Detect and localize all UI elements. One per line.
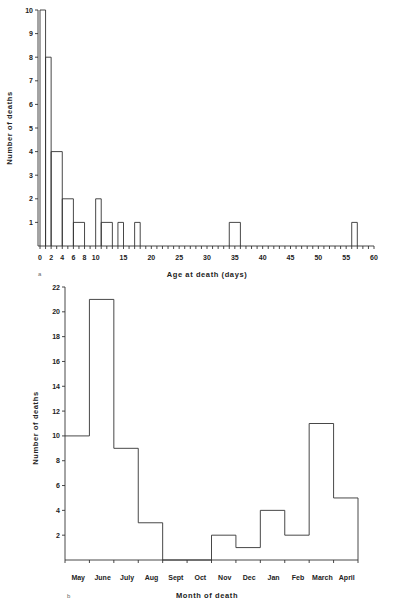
x-category-label: Jan — [268, 574, 280, 581]
histogram-bar — [62, 199, 73, 246]
y-tick-label: 4 — [29, 148, 33, 155]
y-tick-label: 10 — [25, 7, 33, 14]
y-tick-label: 9 — [29, 30, 33, 37]
x-tick-label: 45 — [287, 254, 295, 261]
y-tick-label: 5 — [29, 125, 33, 132]
x-tick-label: 8 — [83, 254, 87, 261]
x-tick-label: 10 — [92, 254, 100, 261]
y-tick-label: 20 — [52, 308, 60, 315]
x-tick-label: 35 — [231, 254, 239, 261]
y-tick-label: 4 — [56, 507, 60, 514]
histogram-bar — [229, 222, 240, 246]
x-category-label: Feb — [292, 574, 304, 581]
histogram-bar — [40, 10, 46, 246]
y-tick-label: 16 — [52, 358, 60, 365]
x-axis-title: Age at death (days) — [167, 270, 248, 279]
histogram-bar — [73, 222, 84, 246]
x-tick-label: 6 — [71, 254, 75, 261]
x-category-label: April — [339, 574, 355, 582]
y-tick-label: 2 — [56, 532, 60, 539]
y-tick-label: 2 — [29, 195, 33, 202]
x-tick-label: 20 — [147, 254, 155, 261]
histogram-bar — [96, 199, 102, 246]
x-tick-label: 25 — [175, 254, 183, 261]
y-tick-label: 14 — [52, 383, 60, 390]
y-axis-title: Number of deaths — [5, 91, 14, 164]
figure: 12345678910024681015202530354045505560Ag… — [0, 0, 394, 604]
histogram-bar — [101, 222, 112, 246]
x-tick-label: 40 — [259, 254, 267, 261]
x-category-label: Sept — [168, 574, 184, 582]
y-tick-label: 7 — [29, 77, 33, 84]
x-category-label: Oct — [194, 574, 206, 581]
histogram-outline — [65, 299, 358, 560]
histogram-bar — [118, 222, 124, 246]
x-tick-label: 30 — [203, 254, 211, 261]
x-category-label: July — [120, 574, 134, 582]
y-axis-title: Number of deaths — [31, 391, 40, 464]
x-axis-title: Month of death — [176, 591, 238, 600]
y-tick-label: 10 — [52, 432, 60, 439]
y-tick-label: 1 — [29, 219, 33, 226]
histogram-bar — [46, 57, 52, 246]
x-category-label: May — [71, 574, 85, 582]
histogram-bar — [51, 152, 62, 246]
x-category-label: Dec — [243, 574, 256, 581]
histogram-bar — [352, 222, 358, 246]
x-tick-label: 2 — [49, 254, 53, 261]
x-category-label: Nov — [218, 574, 231, 581]
y-tick-label: 8 — [29, 54, 33, 61]
y-tick-label: 6 — [56, 482, 60, 489]
x-category-label: Aug — [145, 574, 159, 582]
y-tick-label: 3 — [29, 172, 33, 179]
x-tick-label: 15 — [120, 254, 128, 261]
y-tick-label: 12 — [52, 408, 60, 415]
x-tick-label: 50 — [314, 254, 322, 261]
x-tick-label: 60 — [370, 254, 378, 261]
x-tick-label: 4 — [60, 254, 64, 261]
y-tick-label: 6 — [29, 101, 33, 108]
histogram-age-at-death: 12345678910024681015202530354045505560Ag… — [5, 7, 378, 280]
x-category-label: June — [94, 574, 110, 581]
y-tick-label: 22 — [52, 284, 60, 291]
x-category-label: March — [312, 574, 333, 581]
panel-label-b: b — [67, 593, 71, 599]
histogram-bar — [135, 222, 141, 246]
y-tick-label: 8 — [56, 457, 60, 464]
x-tick-label: 55 — [342, 254, 350, 261]
panel-label-a: a — [38, 271, 42, 277]
x-tick-label: 0 — [38, 254, 42, 261]
y-tick-label: 18 — [52, 333, 60, 340]
histogram-month-of-death: 246810121416182022MayJuneJulyAugSeptOctN… — [31, 284, 358, 601]
